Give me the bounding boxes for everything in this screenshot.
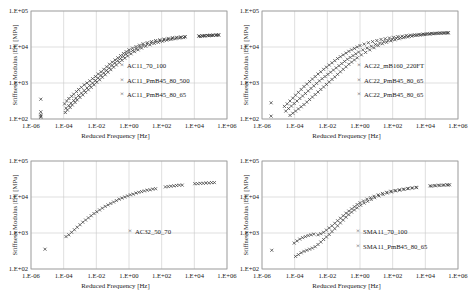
- data-marker: [319, 88, 322, 91]
- data-marker: [304, 235, 307, 238]
- data-marker: [338, 64, 341, 67]
- data-marker: [93, 83, 96, 86]
- x-tick-label: 1.E-06: [248, 122, 276, 129]
- data-marker: [311, 247, 314, 250]
- data-marker: [346, 58, 349, 61]
- legend-label: AC22_mB160_220FT: [364, 62, 424, 69]
- data-marker: [361, 48, 364, 51]
- x-tick-label: 1.E-04: [281, 122, 309, 129]
- legend-marker-icon: ×: [356, 243, 360, 250]
- data-marker: [322, 85, 325, 88]
- y-tick-label: 1.E+03: [0, 79, 28, 86]
- x-tick-label: 1.E+06: [444, 272, 472, 279]
- data-marker: [297, 91, 300, 94]
- data-marker: [373, 46, 376, 49]
- data-marker: [374, 43, 377, 46]
- data-marker: [336, 57, 339, 60]
- data-marker: [296, 100, 299, 103]
- data-marker: [87, 216, 90, 219]
- legend-item: ×SMA11_70_100: [356, 228, 427, 235]
- data-marker: [107, 71, 110, 74]
- data-marker: [199, 182, 202, 185]
- legend-label: AC22_PmB45_80_65: [364, 91, 423, 98]
- data-marker: [98, 208, 101, 211]
- data-marker: [343, 60, 346, 63]
- data-marker: [76, 98, 79, 101]
- data-marker: [77, 88, 80, 91]
- data-marker: [301, 94, 304, 97]
- data-marker: [137, 191, 140, 194]
- data-marker: [126, 55, 129, 58]
- data-marker: [311, 96, 314, 99]
- data-marker: [270, 115, 273, 118]
- x-tick-label: 1.E+00: [346, 272, 374, 279]
- data-marker: [104, 73, 107, 76]
- y-axis-label: Stiffness Modulus |E*| [MPa]: [242, 13, 249, 117]
- y-axis-label: Stiffness Modulus |E*| [MPa]: [11, 13, 18, 117]
- legend-label: AC11_70_100: [127, 62, 166, 69]
- data-marker: [290, 105, 293, 108]
- x-axis-label: Reduced Frequency [Hz]: [0, 282, 231, 289]
- y-tick-label: 1.E+04: [0, 193, 28, 200]
- data-marker: [342, 219, 345, 222]
- data-marker: [84, 91, 87, 94]
- legend-item: ×AC32_50_70: [128, 228, 171, 235]
- data-marker: [101, 76, 104, 79]
- data-marker: [105, 65, 108, 68]
- data-marker: [311, 78, 314, 81]
- y-axis-label: Stiffness Modulus |E*| [MPa]: [11, 163, 18, 267]
- data-marker: [389, 39, 392, 42]
- data-marker: [345, 52, 348, 55]
- data-marker: [109, 202, 112, 205]
- panel-ac22: Stiffness Modulus |E*| [MPa]1.E+051.E+04…: [231, 0, 462, 150]
- data-marker: [331, 224, 334, 227]
- data-marker: [115, 199, 118, 202]
- data-marker: [315, 82, 318, 85]
- data-marker: [296, 239, 299, 242]
- x-tick-label: 1.E-02: [82, 272, 110, 279]
- data-marker: [213, 181, 216, 184]
- data-marker: [270, 101, 273, 104]
- data-marker: [297, 107, 300, 110]
- data-marker: [71, 103, 74, 106]
- data-marker: [384, 37, 387, 40]
- data-marker: [102, 68, 105, 71]
- legend: ×AC22_mB160_220FT×AC22_PmB45_80_65×AC22_…: [357, 62, 424, 106]
- data-marker: [308, 248, 311, 251]
- data-marker: [149, 188, 152, 191]
- legend-item: ×AC11_70_100: [120, 62, 190, 69]
- x-tick-label: 1.E-04: [50, 122, 78, 129]
- y-tick-label: 1.E+04: [231, 43, 259, 50]
- x-axis-label: Reduced Frequency [Hz]: [0, 132, 231, 139]
- data-marker: [329, 71, 332, 74]
- data-marker: [164, 185, 167, 188]
- legend-label: SMA11_PmB45_80_65: [363, 243, 427, 250]
- data-marker: [322, 231, 325, 234]
- data-marker: [363, 43, 366, 46]
- data-marker: [317, 243, 320, 246]
- x-axis-label: Reduced Frequency [Hz]: [231, 132, 462, 139]
- x-tick-label: 1.E-06: [17, 272, 45, 279]
- data-marker: [70, 231, 73, 234]
- data-marker: [100, 70, 103, 73]
- data-marker: [83, 83, 86, 86]
- x-tick-label: 1.E+06: [444, 122, 472, 129]
- data-marker: [297, 253, 300, 256]
- data-marker: [81, 93, 84, 96]
- data-marker: [286, 102, 289, 105]
- data-marker: [360, 53, 363, 56]
- data-marker: [322, 238, 325, 241]
- data-marker: [307, 234, 310, 237]
- data-marker: [205, 181, 208, 184]
- y-tick-label: 1.E+05: [231, 7, 259, 14]
- data-marker: [367, 41, 370, 44]
- data-marker: [345, 65, 348, 68]
- data-marker: [298, 238, 301, 241]
- data-marker: [331, 61, 334, 64]
- data-marker: [153, 42, 156, 45]
- y-tick-label: 1.E+05: [0, 7, 28, 14]
- data-marker: [79, 96, 82, 99]
- data-marker: [319, 70, 322, 73]
- data-marker: [336, 219, 339, 222]
